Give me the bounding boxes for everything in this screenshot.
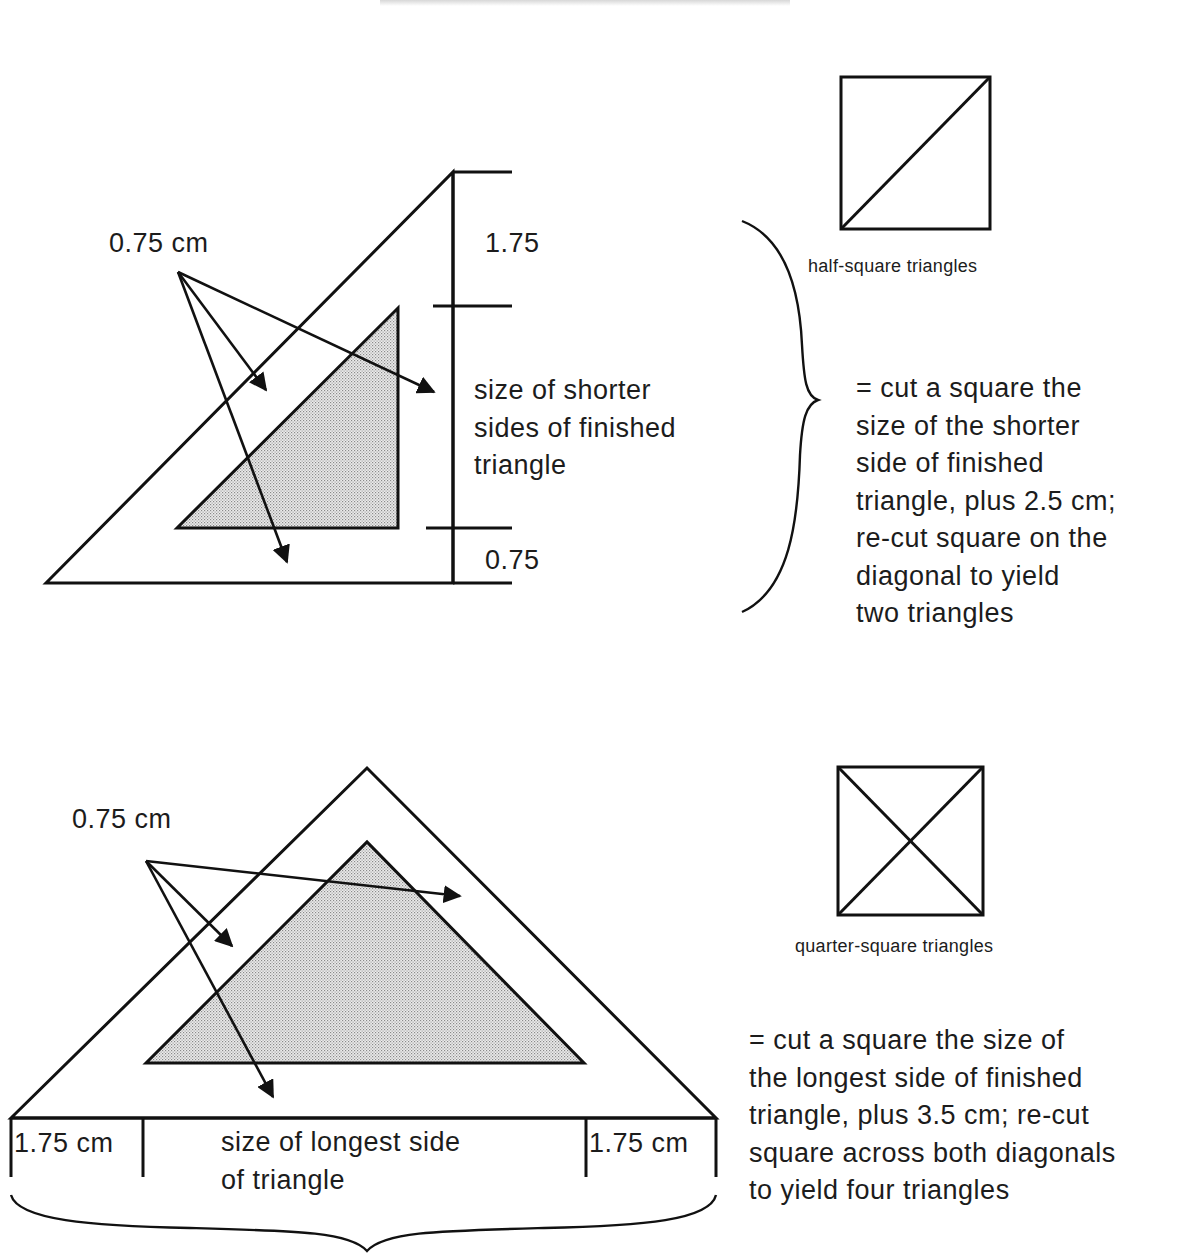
dim-bottom-label: 0.75 xyxy=(485,547,540,574)
instruction-line: triangle, plus 2.5 cm; xyxy=(856,483,1116,521)
instruction-line: = cut a square the size of xyxy=(749,1022,1116,1060)
instruction-line: size of the shorter xyxy=(856,408,1116,446)
instruction-line: = cut a square the xyxy=(856,370,1116,408)
dim-left-label: 1.75 cm xyxy=(14,1130,114,1157)
finished-triangle xyxy=(146,842,584,1063)
dim-middle-label: size of longest side of triangle xyxy=(221,1124,461,1199)
curly-brace-icon xyxy=(742,221,818,612)
half-square-icon xyxy=(841,77,990,229)
instruction-line: triangle, plus 3.5 cm; re-cut xyxy=(749,1097,1116,1135)
dim-top-label: 1.75 xyxy=(485,230,540,257)
quarter-square-icon xyxy=(838,767,983,915)
instruction-line: to yield four triangles xyxy=(749,1172,1116,1210)
dim-middle-line: sides of finished xyxy=(474,410,676,448)
dim-middle-line: size of shorter xyxy=(474,372,676,410)
half-square-caption: half-square triangles xyxy=(808,257,977,275)
instruction-line: the longest side of finished xyxy=(749,1060,1116,1098)
horizontal-curly-brace-icon xyxy=(11,1195,716,1251)
dim-middle-line: of triangle xyxy=(221,1162,461,1200)
dim-middle-line: size of longest side xyxy=(221,1124,461,1162)
quarter-square-caption: quarter-square triangles xyxy=(795,937,993,955)
seam-allowance-label: 0.75 cm xyxy=(72,806,172,833)
instruction-line: side of finished xyxy=(856,445,1116,483)
half-square-instructions: = cut a square the size of the shorter s… xyxy=(856,370,1116,633)
dim-right-label: 1.75 cm xyxy=(589,1130,689,1157)
instruction-line: two triangles xyxy=(856,595,1116,633)
instruction-line: square across both diagonals xyxy=(749,1135,1116,1173)
quarter-square-instructions: = cut a square the size of the longest s… xyxy=(749,1022,1116,1210)
seam-allowance-label: 0.75 cm xyxy=(109,230,209,257)
instruction-line: diagonal to yield xyxy=(856,558,1116,596)
dim-middle-label: size of shorter sides of finished triang… xyxy=(474,372,676,485)
dim-middle-line: triangle xyxy=(474,447,676,485)
instruction-line: re-cut square on the xyxy=(856,520,1116,558)
